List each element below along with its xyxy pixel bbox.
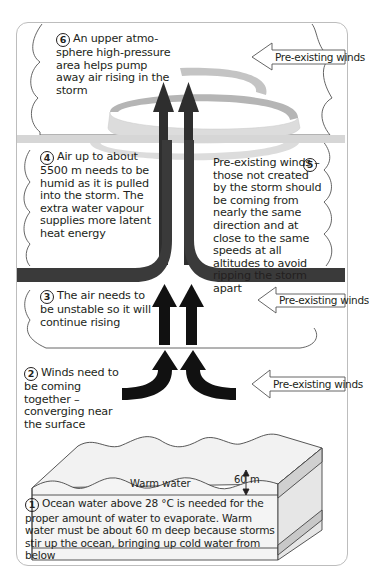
step-6-number: 6	[56, 33, 70, 47]
step-6-label: 6An upper atmo-sphere high-pressure area…	[56, 33, 176, 97]
wind-label-bottom: Pre-existing winds	[273, 378, 363, 390]
step-3-text: The air needs to be unstable so it will …	[40, 289, 151, 329]
step-3-number: 3	[40, 290, 54, 304]
cloud-panel-5	[322, 140, 332, 266]
wind-label-middle: Pre-existing winds	[279, 294, 369, 306]
step-5-number: 5	[303, 158, 317, 172]
step-1-text: Ocean water above 28 °C is needed for th…	[25, 497, 275, 561]
step-6-text: An upper atmo-sphere high-pressure area …	[56, 32, 170, 97]
cloud-panel-4	[24, 150, 30, 266]
spiral-band-back	[110, 94, 298, 120]
rising-arrows-middle	[152, 284, 204, 345]
depth-label: 60 m	[234, 474, 260, 485]
step-3-label: 3The air needs to be unstable so it will…	[40, 290, 152, 329]
step-4-text: Air up to about 5500 m needs to be humid…	[40, 150, 151, 240]
upper-band	[17, 135, 345, 143]
wind-label-top: Pre-existing winds	[275, 51, 365, 63]
step-1-label: 1Ocean water above 28 °C is needed for t…	[25, 497, 277, 562]
step-2-number: 2	[24, 367, 38, 381]
step-2-label: 2Winds need to be coming together – conv…	[24, 367, 129, 431]
step-2-text: Winds need to be coming together – conve…	[24, 366, 119, 431]
step-1-number: 1	[25, 498, 39, 512]
step-4-label: 4Air up to about 5500 m needs to be humi…	[40, 151, 155, 241]
warm-water-label: Warm water	[130, 478, 191, 489]
step-5-text: Pre-existing winds – those not created b…	[213, 156, 321, 295]
spiral-band-top	[180, 68, 266, 95]
step-4-number: 4	[40, 151, 54, 165]
step-5-label: Pre-existing winds – those not created b…	[213, 157, 323, 296]
converging-arrows	[122, 350, 236, 400]
